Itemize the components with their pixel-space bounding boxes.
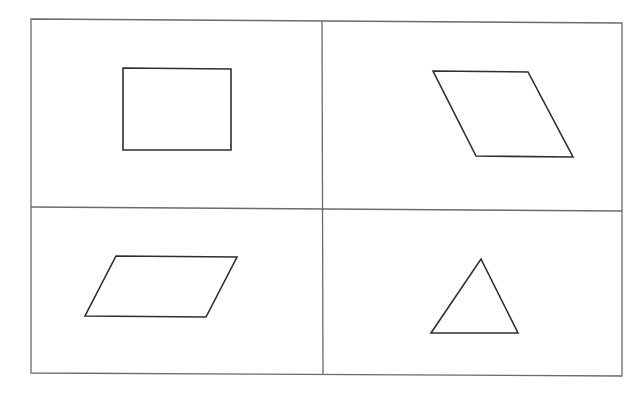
diagram-svg	[0, 0, 643, 393]
cell-top-right	[433, 71, 573, 157]
grid-outer-border	[31, 19, 622, 376]
parallelogram-shape	[85, 256, 237, 317]
shape-grid-diagram	[0, 0, 643, 393]
triangle-shape	[431, 259, 518, 333]
rhombus-shape	[433, 71, 573, 157]
cell-bottom-left	[85, 256, 237, 317]
cell-bottom-right	[431, 259, 518, 333]
grid-vertical-divider	[322, 21, 323, 374]
square-shape	[123, 68, 231, 150]
grid-horizontal-divider	[31, 207, 622, 211]
cell-top-left	[123, 68, 231, 150]
